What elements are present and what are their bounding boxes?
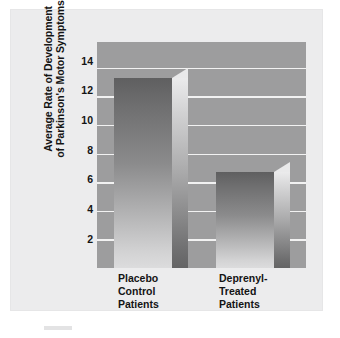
x-axis-category-labels: Placebo Control Patients Deprenyl- Treat…: [97, 272, 321, 318]
y-tick-label: 4: [87, 204, 93, 214]
bar-side-face: [172, 78, 188, 268]
footer-artifact-mark: [44, 326, 72, 330]
x-label-placebo-line-2: Control: [118, 285, 155, 298]
bar-front-face: [114, 78, 172, 268]
bar-side-face: [274, 172, 290, 268]
y-tick-label: 2: [87, 234, 93, 244]
bar-placebo-control-patients[interactable]: [114, 68, 188, 268]
x-label-placebo-line-1: Placebo: [118, 272, 158, 285]
y-axis-tick-labels: 14 12 10 8 6 4 2: [63, 10, 97, 310]
x-label-deprenyl-line-3: Patients: [219, 298, 260, 311]
y-tick-label: 6: [87, 174, 93, 184]
bar-deprenyl-treated-patients[interactable]: [216, 162, 290, 268]
y-tick-label: 10: [81, 115, 93, 125]
y-tick-label: 8: [87, 145, 93, 155]
x-label-deprenyl-line-1: Deprenyl-: [219, 272, 267, 285]
x-label-deprenyl-line-2: Treated: [219, 285, 256, 298]
y-tick-label: 12: [81, 85, 93, 95]
bar-top-bevel: [172, 68, 188, 78]
figure-canvas: Average Rate of Development of Parkinson…: [0, 0, 340, 338]
x-label-placebo-line-3: Patients: [118, 298, 159, 311]
plot-area: [97, 42, 306, 268]
bar-top-bevel: [274, 162, 290, 172]
y-tick-label: 14: [81, 56, 93, 66]
y-axis-title-line-1: Average Rate of Development: [42, 6, 55, 152]
chart-panel: Average Rate of Development of Parkinson…: [11, 10, 322, 310]
bar-front-face: [216, 172, 274, 268]
